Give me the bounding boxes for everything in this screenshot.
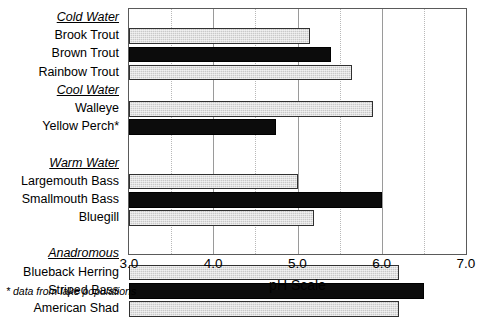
bar-row [129, 118, 466, 136]
species-label: Rainbow Trout [0, 63, 124, 81]
group-label: Cold Water [0, 8, 124, 26]
spacer-row [0, 317, 124, 321]
bar-row [129, 136, 466, 154]
bar-row [129, 45, 466, 63]
bar[interactable] [129, 174, 298, 190]
bar[interactable] [129, 119, 276, 135]
bar[interactable] [129, 192, 382, 208]
bar-row [129, 209, 466, 227]
bar[interactable] [129, 210, 314, 226]
x-tick-label: 4.0 [204, 256, 223, 271]
bar-row [129, 155, 466, 173]
x-axis-title: pH Scale [128, 277, 467, 293]
species-label: Brown Trout [0, 44, 124, 62]
spacer-row [0, 135, 124, 153]
bar[interactable] [129, 301, 399, 317]
bar-row [129, 64, 466, 82]
bar[interactable] [129, 101, 373, 117]
bar-row [129, 173, 466, 191]
bar[interactable] [129, 47, 331, 63]
x-axis-tick-labels: 3.04.05.06.07.0 [0, 256, 491, 276]
x-tick-label: 3.0 [120, 256, 139, 271]
bar-row [129, 9, 466, 27]
species-label: Smallmouth Bass [0, 190, 124, 208]
plot-area [128, 8, 467, 255]
species-label: Walleye [0, 99, 124, 117]
species-label: Bluegill [0, 208, 124, 226]
bar-row [129, 300, 466, 318]
bar-row [129, 227, 466, 245]
group-label: Cool Water [0, 81, 124, 99]
bar-series [129, 9, 466, 254]
bar-row [129, 318, 466, 321]
footnote: * data from lake populations [6, 285, 136, 297]
x-tick-label: 6.0 [372, 256, 391, 271]
x-tick-label: 7.0 [457, 256, 476, 271]
species-label: Yellow Perch* [0, 117, 124, 135]
spacer-row [0, 226, 124, 244]
bar-row [129, 82, 466, 100]
bar-row [129, 191, 466, 209]
species-label: Largemouth Bass [0, 172, 124, 190]
bar-row [129, 27, 466, 45]
species-label: American Shad [0, 299, 124, 317]
x-tick-label: 5.0 [288, 256, 307, 271]
group-label: Warm Water [0, 154, 124, 172]
bar[interactable] [129, 28, 310, 44]
species-label: Brook Trout [0, 26, 124, 44]
bar-row [129, 100, 466, 118]
bar[interactable] [129, 65, 352, 81]
